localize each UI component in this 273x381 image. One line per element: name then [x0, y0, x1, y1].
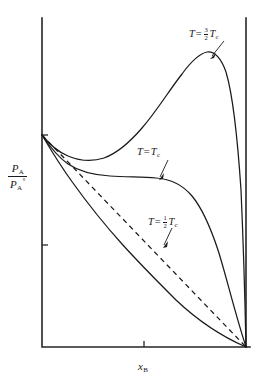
curve-label-critical-target: T	[151, 146, 157, 157]
leader-line-hot	[212, 41, 224, 56]
curve-label-cold-frac-num: 1	[163, 215, 167, 222]
curve-label-hot-equals: =	[195, 28, 203, 39]
x-axis-label-sub: B	[143, 366, 148, 374]
y-axis-label-denominator: PA°	[8, 176, 27, 192]
vapor-pressure-figure: T=32Tc T=Tc T=12Tc PA PA° xB	[0, 0, 273, 381]
y-axis-label: PA PA°	[8, 163, 27, 192]
curve-label-cold-target-sub: c	[174, 221, 177, 229]
plot-canvas	[0, 0, 273, 381]
y-axis-label-numerator: PA	[8, 163, 27, 176]
series-hot-curve	[42, 52, 246, 347]
curve-label-hot: T=32Tc	[189, 27, 219, 41]
curve-label-critical-target-sub: c	[157, 151, 160, 159]
x-axis-label: xB	[138, 361, 148, 374]
curve-label-cold-equals: =	[154, 216, 162, 227]
curve-label-hot-frac-den: 2	[204, 34, 208, 42]
curve-label-hot-symbol: T	[189, 28, 195, 39]
curve-label-cold-frac-den: 2	[163, 222, 167, 230]
curve-label-cold: T=12Tc	[148, 215, 178, 229]
leader-line-cold	[164, 228, 172, 245]
curve-label-cold-symbol: T	[148, 216, 154, 227]
y-axis-label-den-symbol: P	[10, 178, 17, 190]
curve-label-critical-symbol: T	[137, 146, 143, 157]
leader-line-critical	[160, 160, 168, 177]
curve-label-critical-equals: =	[143, 146, 151, 157]
curve-label-critical: T=Tc	[137, 147, 160, 159]
curve-label-hot-frac-num: 3	[204, 27, 208, 34]
y-axis-label-den-degree: °	[22, 177, 25, 186]
y-axis-label-num-sub: A	[18, 168, 23, 176]
curve-label-hot-target-sub: c	[215, 33, 218, 41]
arrowhead-hot	[210, 53, 216, 59]
